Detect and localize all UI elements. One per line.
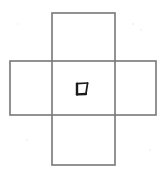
figure-background: [0, 0, 166, 177]
figure-canvas: [0, 0, 166, 177]
cube-net-figure: 口 Cube net with character in center face: [0, 0, 166, 177]
